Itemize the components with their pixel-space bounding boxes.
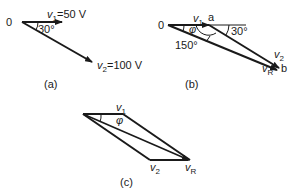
phasor-vR-c xyxy=(83,114,189,160)
phasor-diagram-canvas: 0 30° v1=50 V v2=100 V (a) 0 φ 150° 30° … xyxy=(0,0,301,192)
origin-label-a: 0 xyxy=(6,16,12,28)
v2-label-a: v2=100 V xyxy=(97,59,143,74)
phi-label-c: φ xyxy=(116,114,123,126)
angle-label-150-b: 150° xyxy=(175,39,198,51)
origin-label-b: 0 xyxy=(158,19,164,31)
panel-c: v1 φ v2 vR (c) xyxy=(83,101,197,188)
caption-a: (a) xyxy=(44,78,57,90)
caption-b: (b) xyxy=(185,78,198,90)
point-b-label-b: b xyxy=(281,62,287,74)
vR-label-c: vR xyxy=(185,161,197,176)
caption-c: (c) xyxy=(120,176,133,188)
angle-arc-30-b xyxy=(226,25,229,35)
v1-label-a: v1=50 V xyxy=(47,8,87,23)
phi-label-b: φ xyxy=(189,23,196,35)
angle-arc-phi-c xyxy=(100,114,101,122)
v2-label-c: v2 xyxy=(150,161,161,176)
phasor-v2-a xyxy=(22,22,92,62)
panel-b: 0 φ 150° 30° v1 a v2 vR b (b) xyxy=(158,11,287,90)
v2-label-b: v2 xyxy=(274,48,285,63)
point-a-label-b: a xyxy=(208,11,215,23)
parallelogram-side-right-c xyxy=(123,114,190,160)
angle-label-30-b: 30° xyxy=(231,25,248,37)
panel-a: 0 30° v1=50 V v2=100 V (a) xyxy=(6,8,143,90)
angle-label-30-a: 30° xyxy=(38,23,55,35)
